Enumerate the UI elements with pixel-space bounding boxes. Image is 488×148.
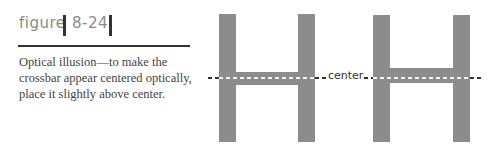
figure-bar-right: [109, 15, 112, 36]
center-line-right-inner: [373, 77, 470, 79]
figure-label: figure: [19, 14, 66, 32]
header-rule: [18, 45, 190, 47]
figure-bar-left: [63, 15, 66, 36]
center-label: center: [327, 69, 364, 82]
figure-number: 8-24: [72, 14, 108, 32]
center-line-left-inner: [219, 77, 315, 79]
caption: Optical illusion—to make the crossbar ap…: [19, 54, 199, 102]
center-line-left-outer: [208, 77, 219, 79]
center-line-right-outer: [470, 77, 482, 79]
right-h-crossbar: [390, 68, 453, 83]
